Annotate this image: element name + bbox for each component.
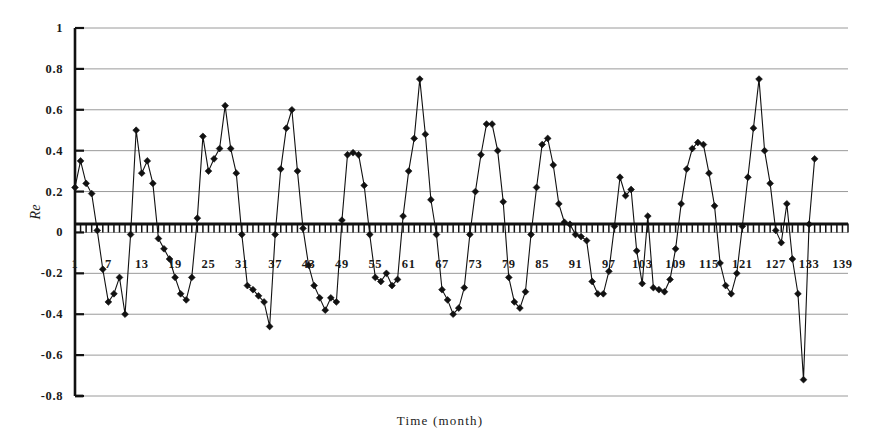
data-point-marker bbox=[111, 290, 118, 297]
x-tick-label: 13 bbox=[135, 257, 149, 271]
data-point-marker bbox=[617, 174, 624, 181]
x-tick-label: 67 bbox=[435, 257, 449, 271]
data-point-marker bbox=[789, 256, 796, 263]
data-point-marker bbox=[778, 239, 785, 246]
data-point-marker bbox=[761, 147, 768, 154]
data-point-marker bbox=[633, 247, 640, 254]
data-point-marker bbox=[233, 170, 240, 177]
data-point-marker bbox=[728, 290, 735, 297]
data-point-marker bbox=[744, 174, 751, 181]
data-point-marker bbox=[533, 184, 540, 191]
x-tick-label: 79 bbox=[502, 257, 516, 271]
data-point-marker bbox=[83, 180, 90, 187]
y-tick-label: 1 bbox=[56, 21, 63, 35]
data-point-markers-group bbox=[72, 76, 818, 383]
data-point-marker bbox=[294, 168, 301, 175]
x-tick-label: 25 bbox=[202, 257, 216, 271]
data-point-marker bbox=[416, 76, 423, 83]
data-point-marker bbox=[494, 147, 501, 154]
y-tick-label: 0.4 bbox=[46, 144, 64, 158]
data-point-marker bbox=[505, 274, 512, 281]
data-point-marker bbox=[172, 274, 179, 281]
data-point-marker bbox=[767, 180, 774, 187]
data-point-marker bbox=[105, 299, 112, 306]
data-point-marker bbox=[194, 215, 201, 222]
data-point-marker bbox=[149, 180, 156, 187]
data-point-marker bbox=[277, 166, 284, 173]
data-point-marker bbox=[795, 290, 802, 297]
data-point-marker bbox=[283, 125, 290, 132]
data-point-marker bbox=[383, 270, 390, 277]
data-point-marker bbox=[322, 307, 329, 314]
data-point-marker bbox=[750, 125, 757, 132]
x-tick-label: 121 bbox=[732, 257, 753, 271]
y-tick-label: 0.2 bbox=[46, 185, 63, 199]
data-point-marker bbox=[188, 274, 195, 281]
data-point-marker bbox=[422, 131, 429, 138]
y-tick-label: -0.8 bbox=[41, 389, 63, 403]
data-point-marker bbox=[478, 151, 485, 158]
data-point-marker bbox=[77, 157, 84, 164]
y-tick-label: 0 bbox=[56, 225, 63, 239]
x-tick-label: 73 bbox=[469, 257, 483, 271]
x-tick-label: 115 bbox=[699, 257, 719, 271]
data-point-marker bbox=[300, 225, 307, 232]
data-point-marker bbox=[672, 245, 679, 252]
y-tick-marks-group bbox=[75, 28, 84, 396]
plot-frame bbox=[75, 28, 83, 396]
data-point-marker bbox=[667, 276, 674, 283]
data-point-marker bbox=[288, 106, 295, 113]
data-point-marker bbox=[711, 202, 718, 209]
x-tick-label: 31 bbox=[235, 257, 249, 271]
x-tick-label: 61 bbox=[402, 257, 416, 271]
y-tick-label: -0.6 bbox=[41, 348, 63, 362]
data-point-marker bbox=[400, 213, 407, 220]
data-point-marker bbox=[600, 290, 607, 297]
data-point-marker bbox=[122, 311, 129, 318]
data-point-marker bbox=[200, 133, 207, 140]
x-tick-label: 49 bbox=[335, 257, 349, 271]
data-point-marker bbox=[311, 282, 318, 289]
data-point-marker bbox=[722, 282, 729, 289]
y-tick-label: -0.4 bbox=[41, 307, 63, 321]
data-point-marker bbox=[411, 135, 418, 142]
data-point-marker bbox=[439, 286, 446, 293]
data-point-marker bbox=[811, 155, 818, 162]
data-point-marker bbox=[72, 184, 79, 191]
data-point-marker bbox=[639, 280, 646, 287]
data-point-marker bbox=[428, 196, 435, 203]
gridlines-group bbox=[75, 28, 848, 396]
x-tick-label: 43 bbox=[302, 257, 316, 271]
data-point-marker bbox=[800, 376, 807, 383]
data-point-marker bbox=[806, 221, 813, 228]
x-tick-label: 103 bbox=[632, 257, 653, 271]
data-point-marker bbox=[155, 235, 162, 242]
x-tick-label: 7 bbox=[105, 257, 112, 271]
data-point-marker bbox=[489, 121, 496, 128]
data-point-marker bbox=[706, 170, 713, 177]
data-point-marker bbox=[678, 200, 685, 207]
x-tick-label: 19 bbox=[168, 257, 182, 271]
x-tick-label: 133 bbox=[799, 257, 820, 271]
data-point-marker bbox=[756, 76, 763, 83]
x-tick-label: 109 bbox=[665, 257, 686, 271]
x-axis-title: Time (month) bbox=[397, 413, 484, 428]
x-tick-label: 91 bbox=[569, 257, 583, 271]
y-tick-label: 0.8 bbox=[46, 62, 63, 76]
line-chart: 10.80.60.40.20-0.2-0.4-0.6-0.8 171319253… bbox=[0, 0, 881, 441]
y-axis-title: Re bbox=[28, 205, 43, 221]
x-tick-label: 55 bbox=[368, 257, 382, 271]
x-tick-label: 37 bbox=[268, 257, 282, 271]
data-point-marker bbox=[361, 182, 368, 189]
x-tick-label: 1 bbox=[72, 257, 79, 271]
data-point-marker bbox=[138, 170, 145, 177]
data-point-marker bbox=[461, 284, 468, 291]
data-point-marker bbox=[522, 288, 529, 295]
data-point-marker bbox=[116, 274, 123, 281]
x-tick-labels-group: 1713192531374349556167737985919710310911… bbox=[72, 257, 853, 271]
y-tick-label: -0.2 bbox=[41, 266, 63, 280]
data-point-marker bbox=[444, 297, 451, 304]
data-point-marker bbox=[266, 323, 273, 330]
data-point-marker bbox=[500, 198, 507, 205]
data-point-marker bbox=[683, 166, 690, 173]
